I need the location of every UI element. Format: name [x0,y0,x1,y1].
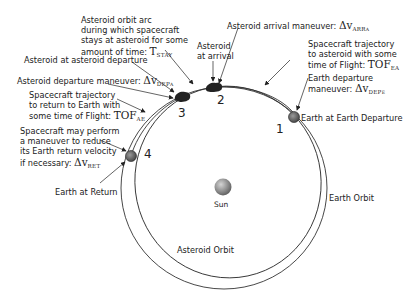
label-return-maneuver: Spacecraft may perform a maneuver to red… [20,126,120,171]
label-line: Spacecraft trajectory [308,39,399,49]
label-sun: Sun [214,200,228,210]
label-line: Asteroid orbit arc [81,15,188,25]
label-earth-at-departure: Earth at Earth Departure [301,113,403,123]
label-earth-orbit: Earth Orbit [329,193,374,203]
phase-number-4: 4 [144,147,152,161]
label-earth-departure-maneuver: Earth departure maneuver: ΔvDEPE [308,73,385,98]
math-symbol: Δv [74,156,88,168]
asteroid-departure-icon [175,92,191,102]
label-line: Spacecraft trajectory [29,90,145,100]
label-asteroid-at-departure: Asteroid at asteroid departure [24,55,147,65]
math-symbol: T [150,45,157,57]
label-line: time of Flight: [308,60,368,70]
math-subscript: DEP [157,81,170,87]
label-line: Earth departure [308,73,385,83]
label-trajectory-to-earth: Spacecraft trajectory to return to Earth… [29,90,145,125]
trajectory-earth-to-asteroid [214,87,296,116]
math-subscript: EA [391,65,400,71]
arrow-earth-departure-maneuver [297,78,308,110]
math-subscript: DEP [368,89,381,95]
label-stay-arc: Asteroid orbit arc during which spacecra… [81,15,188,60]
math-symbol: TOF [368,58,391,70]
math-symbol: Δv [339,19,353,31]
phase-number-3: 3 [178,106,186,120]
math-subscript: RET [88,163,101,169]
label-line: some time of Flight: [29,111,114,121]
label-line: at arrival [197,51,234,61]
label-line: during which spacecraft [81,25,188,35]
label-earth-at-return: Earth at Return [55,187,118,197]
asteroid-arrival-icon [206,83,222,92]
label-line: Asteroid [197,41,234,51]
earth-departure-icon [289,112,300,123]
math-subscript: STAY [157,52,173,58]
label-line: its Earth return velocity [20,146,120,156]
math-symbol: TOF [114,109,137,121]
label-line: maneuver: [308,84,355,94]
label-text: Asteroid arrival maneuver: [227,21,339,31]
label-asteroid-arrival-maneuver: Asteroid arrival maneuver: ΔvARRA [227,20,369,35]
label-asteroid-orbit: Asteroid Orbit [177,245,234,255]
math-subscript: ARR [352,26,365,32]
label-text: Asteroid departure maneuver: [17,76,143,86]
label-asteroid-departure-maneuver: Asteroid departure maneuver: ΔvDEPA [17,75,174,90]
math-subsubscript: A [170,82,174,87]
math-subsubscript: A [366,27,370,32]
math-subsubscript: E [382,90,386,95]
phase-number-1: 1 [276,122,284,136]
math-symbol: Δv [355,82,369,94]
label-trajectory-to-asteroid: Spacecraft trajectory to asteroid with s… [308,39,399,74]
label-line: Spacecraft may perform [20,126,120,136]
phase-number-2: 2 [217,93,225,107]
math-symbol: Δv [143,74,157,86]
label-line: a maneuver to reduce [20,136,120,146]
label-line: stays at asteroid for some [81,35,188,45]
earth-return-icon [126,151,137,162]
label-asteroid-at-arrival: Asteroid at arrival [197,41,234,61]
arrow-traj-to-asteroid [265,60,290,85]
math-subscript: AE [137,116,146,122]
sun-icon [215,179,232,196]
label-line: if necessary: [20,158,74,168]
